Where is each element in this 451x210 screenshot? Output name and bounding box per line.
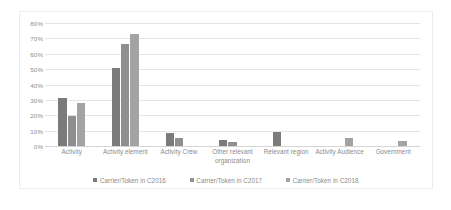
legend-item[interactable]: Carrier/Token in C2016 [93, 177, 165, 184]
legend-label: Carrier/Token in C2016 [100, 177, 166, 184]
y-axis: 0%10%20%30%40%50%60%70%80% [20, 23, 45, 146]
y-axis-tick-label: 70% [30, 35, 43, 42]
y-axis-tick-label: 30% [30, 96, 43, 103]
plot-area [45, 23, 420, 146]
chart-legend: Carrier/Token in C2016Carrier/Token in C… [20, 173, 432, 187]
bar [166, 133, 174, 146]
legend-label: Carrier/Token in C2017 [196, 177, 262, 184]
bar [68, 116, 76, 146]
legend-item[interactable]: Carrier/Token in C2017 [190, 177, 262, 184]
legend-label: Carrier/Token in C2018 [293, 177, 359, 184]
bar [58, 98, 66, 146]
bar [273, 132, 281, 146]
legend-swatch-icon [93, 178, 97, 182]
bar [77, 103, 85, 146]
legend-swatch-icon [286, 178, 290, 182]
bar [112, 68, 120, 146]
bar [175, 138, 183, 146]
legend-swatch-icon [190, 178, 194, 182]
bar [121, 44, 129, 146]
bar [219, 140, 227, 146]
x-axis: ActivityActivity elementActivity CrewOth… [45, 148, 420, 174]
legend-item[interactable]: Carrier/Token in C2018 [286, 177, 358, 184]
y-axis-tick-label: 50% [30, 66, 43, 73]
y-axis-tick-label: 60% [30, 50, 43, 57]
bar [228, 142, 236, 146]
bar [345, 138, 353, 146]
chart-container: 0%10%20%30%40%50%60%70%80% ActivityActiv… [19, 11, 433, 189]
x-axis-category-label: Government [360, 148, 426, 157]
gridline-0pct [45, 146, 420, 147]
bar [130, 34, 138, 146]
y-axis-tick-label: 80% [30, 20, 43, 27]
bar-series-layer [45, 23, 420, 146]
y-axis-tick-label: 40% [30, 81, 43, 88]
y-axis-tick-label: 20% [30, 112, 43, 119]
y-axis-tick-label: 10% [30, 127, 43, 134]
bar [398, 141, 406, 146]
